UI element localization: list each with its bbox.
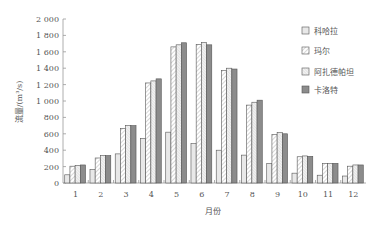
x-tick-label: 9 (275, 190, 280, 199)
y-tick-label: 200 (44, 163, 59, 172)
y-tick-label: 1 600 (36, 48, 59, 57)
y-tick-label: 0 (54, 179, 59, 188)
x-tick-label: 1 (73, 190, 78, 199)
x-tick-label: 12 (348, 190, 358, 199)
y-tick-label: 1 800 (36, 31, 59, 40)
bar (252, 102, 257, 183)
bar (106, 156, 111, 183)
bar (282, 134, 287, 183)
bar (90, 169, 95, 183)
bar-group-month-4 (140, 79, 161, 183)
bar-group-month-3 (115, 126, 136, 183)
bar (328, 163, 333, 183)
y-tick-label: 1 400 (36, 64, 59, 73)
legend-swatch-icon (302, 27, 309, 34)
bar-group-month-6 (191, 42, 212, 183)
legend-label: 科哈拉 (314, 26, 338, 36)
bar (151, 81, 156, 183)
bar (342, 176, 347, 183)
x-tick-label: 8 (250, 190, 255, 199)
legend-label: 卡洛特 (314, 85, 338, 95)
bar-group-month-1 (65, 165, 86, 183)
bar (241, 155, 246, 183)
bar (70, 166, 75, 183)
x-tick-label: 2 (98, 190, 103, 199)
legend-item: 卡洛特 (302, 85, 338, 95)
x-tick-label: 7 (225, 190, 230, 199)
bar (140, 138, 145, 183)
bar (191, 144, 196, 183)
y-tick-label: 400 (44, 146, 59, 155)
bar (171, 47, 176, 183)
bar (65, 175, 70, 183)
bar (75, 165, 80, 183)
legend-swatch-icon (302, 47, 309, 54)
bar (156, 79, 161, 183)
y-tick-label: 600 (44, 130, 59, 139)
bar (302, 156, 307, 183)
bar (333, 163, 338, 183)
legend-label: 阿扎德帕坦 (314, 67, 354, 77)
bar (322, 163, 327, 183)
x-tick-label: 6 (199, 190, 204, 199)
bar (196, 44, 201, 183)
bar-group-month-11 (317, 163, 338, 183)
bar-group-month-12 (342, 165, 363, 183)
legend-swatch-icon (302, 86, 309, 93)
bar (80, 165, 85, 183)
legend-item: 科哈拉 (302, 26, 338, 36)
bar (216, 150, 221, 183)
bar (317, 175, 322, 183)
bar-group-month-7 (216, 68, 237, 183)
bar (131, 126, 136, 183)
bar-group-month-10 (292, 156, 313, 183)
bar (146, 83, 151, 183)
bar (292, 173, 297, 183)
legend: 科哈拉玛尔阿扎德帕坦卡洛特 (302, 26, 354, 95)
bar (257, 100, 262, 183)
y-tick-label: 2 000 (36, 15, 59, 24)
bar (126, 126, 131, 183)
legend-item: 玛尔 (302, 46, 330, 56)
bar (221, 71, 226, 183)
x-tick-label: 11 (323, 190, 333, 199)
bar (227, 68, 232, 183)
bar-series (65, 42, 364, 183)
bar (100, 156, 105, 183)
bar-group-month-5 (166, 43, 187, 183)
bar (201, 42, 206, 183)
bar (166, 132, 171, 183)
x-tick-label: 3 (124, 190, 129, 199)
bar (176, 45, 181, 183)
bar-chart: 02004006008001 0001 2001 4001 6001 8002 … (0, 0, 386, 226)
x-tick-label: 4 (149, 190, 154, 199)
bar (207, 45, 212, 183)
bar (297, 157, 302, 183)
legend-swatch-icon (302, 68, 309, 75)
x-axis-title: 月份 (205, 206, 221, 216)
legend-label: 玛尔 (314, 46, 330, 56)
y-tick-label: 1 200 (36, 81, 59, 90)
bar (353, 165, 358, 183)
y-tick-label: 1 000 (36, 97, 59, 106)
bar (277, 133, 282, 183)
bar (348, 166, 353, 183)
bar (267, 163, 272, 183)
y-tick-label: 800 (44, 113, 59, 122)
bar (232, 69, 237, 183)
bar (95, 158, 100, 183)
bar (358, 165, 363, 183)
bar-group-month-9 (267, 133, 288, 183)
bar (308, 156, 313, 183)
bar (247, 105, 252, 183)
bar (272, 135, 277, 183)
legend-item: 阿扎德帕坦 (302, 67, 354, 77)
x-tick-label: 10 (298, 190, 308, 199)
bar (120, 128, 125, 183)
bar (181, 43, 186, 183)
bar-group-month-2 (90, 156, 111, 183)
y-axis-title: 流量/(m³/s) (14, 81, 24, 124)
x-tick-label: 5 (174, 190, 179, 199)
bar (115, 154, 120, 183)
y-axis: 02004006008001 0001 2001 4001 6001 8002 … (36, 15, 66, 188)
